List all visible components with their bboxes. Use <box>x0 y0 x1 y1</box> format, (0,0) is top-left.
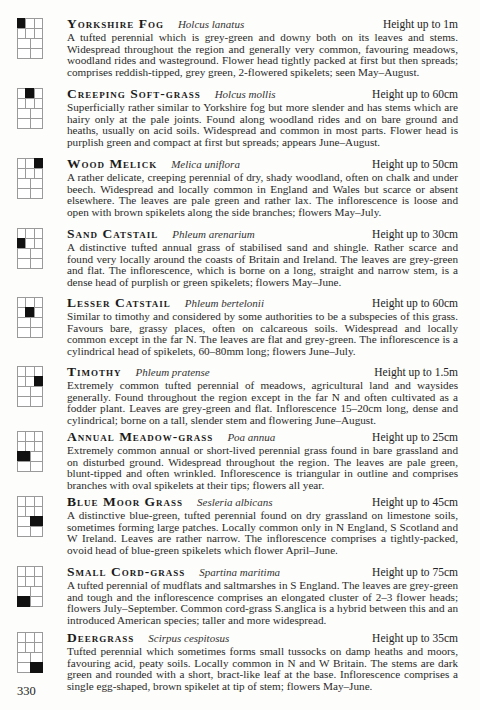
common-name: Blue Moor Grass <box>67 494 183 509</box>
grid-cell <box>17 48 31 59</box>
species-entry: Wood Melick Melica uniflora Height up to… <box>0 152 480 222</box>
grid-cell <box>17 526 31 537</box>
plate-position-grid-icon <box>17 158 42 198</box>
species-description: Extremely common annual or short-lived p… <box>67 445 458 492</box>
common-name: Small Cord-grass <box>67 564 185 579</box>
species-entry: Deergrass Scirpus cespitosus Height up t… <box>0 626 480 696</box>
species-entry: Timothy Phleum pratense Height up to 1.5… <box>0 360 480 430</box>
species-description: A distinctive tufted annual grass of sta… <box>67 242 458 289</box>
common-name: Yorkshire Fog <box>67 16 164 31</box>
latin-name: Melica uniflora <box>171 157 240 172</box>
common-name: Lesser Catstail <box>67 295 171 310</box>
species-description: A tufted perennial of mudflats and saltm… <box>67 580 458 627</box>
plate-position-grid-icon <box>17 88 42 128</box>
height-label: Height up to 45cm <box>372 495 458 510</box>
plate-position-grid-icon <box>17 297 42 337</box>
latin-name: Poa annua <box>227 430 275 445</box>
species-entry: Small Cord-grass Spartina maritima Heigh… <box>0 560 480 630</box>
grid-cell <box>30 461 44 472</box>
species-entry: Blue Moor Grass Sesleria albicans Height… <box>0 490 480 560</box>
grid-cell <box>30 662 44 673</box>
species-description: A rather delicate, creeping perennial of… <box>67 172 458 219</box>
latin-name: Holcus lanatus <box>178 17 244 32</box>
page-number: 330 <box>17 684 36 699</box>
plate-position-grid-icon <box>17 431 42 471</box>
latin-name: Spartina maritima <box>199 565 280 580</box>
latin-name: Phleum arenarium <box>172 227 254 242</box>
height-label: Height up to 1m <box>383 17 458 32</box>
grid-cell <box>17 188 31 199</box>
grid-cell <box>17 118 31 129</box>
grid-cell <box>17 396 31 407</box>
plate-position-grid-icon <box>17 18 42 58</box>
common-name: Deergrass <box>67 630 134 645</box>
plate-position-grid-icon <box>17 366 42 406</box>
field-guide-page: Yorkshire Fog Holcus lanatus Height up t… <box>0 0 480 710</box>
plate-position-grid-icon <box>17 228 42 268</box>
common-name: Sand Catstail <box>67 226 158 241</box>
common-name: Annual Meadow-grass <box>67 429 213 444</box>
grid-cell <box>17 258 31 269</box>
latin-name: Phleum pratense <box>136 365 210 380</box>
height-label: Height up to 50cm <box>372 157 458 172</box>
latin-name: Scirpus cespitosus <box>148 631 229 646</box>
height-label: Height up to 75cm <box>372 565 458 580</box>
species-description: Extremely common tufted perennial of mea… <box>67 380 458 427</box>
grid-cell <box>30 327 44 338</box>
common-name: Wood Melick <box>67 156 157 171</box>
height-label: Height up to 60cm <box>372 296 458 311</box>
grid-cell <box>30 48 44 59</box>
plate-position-grid-icon <box>17 566 42 606</box>
grid-cell <box>17 662 31 673</box>
grid-cell <box>30 118 44 129</box>
common-name: Timothy <box>67 364 122 379</box>
species-entry: Sand Catstail Phleum arenarium Height up… <box>0 222 480 292</box>
species-entry: Lesser Catstail Phleum bertelonii Height… <box>0 291 480 361</box>
plate-position-grid-icon <box>17 496 42 536</box>
height-label: Height up to 25cm <box>372 430 458 445</box>
species-entry: Creeping Soft-grass Holcus mollis Height… <box>0 82 480 152</box>
height-label: Height up to 30cm <box>372 227 458 242</box>
grid-cell <box>17 461 31 472</box>
height-label: Height up to 35cm <box>372 631 458 646</box>
species-description: A distinctive blue-green, tufted perenni… <box>67 510 458 557</box>
grid-cell <box>30 526 44 537</box>
species-description: Superficially rather similar to Yorkshir… <box>67 102 458 149</box>
species-entry: Yorkshire Fog Holcus lanatus Height up t… <box>0 12 480 82</box>
latin-name: Sesleria albicans <box>197 495 272 510</box>
height-label: Height up to 60cm <box>372 87 458 102</box>
species-description: Tufted perennial which sometimes forms s… <box>67 646 458 693</box>
plate-position-grid-icon <box>17 632 42 672</box>
species-entry: Annual Meadow-grass Poa annua Height up … <box>0 425 480 495</box>
latin-name: Holcus mollis <box>215 87 276 102</box>
species-description: Similar to timothy and considered by som… <box>67 311 458 358</box>
grid-cell <box>30 258 44 269</box>
grid-cell <box>17 596 31 607</box>
species-description: A tufted perennial which is grey-green a… <box>67 32 458 79</box>
grid-cell <box>17 327 31 338</box>
grid-cell <box>30 188 44 199</box>
common-name: Creeping Soft-grass <box>67 86 201 101</box>
latin-name: Phleum bertelonii <box>185 296 264 311</box>
grid-cell <box>30 596 44 607</box>
height-label: Height up to 1.5m <box>374 365 458 380</box>
grid-cell <box>30 396 44 407</box>
